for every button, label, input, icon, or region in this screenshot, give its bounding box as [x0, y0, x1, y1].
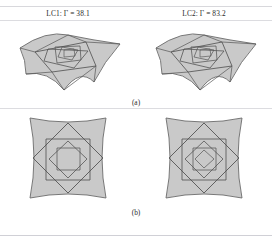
panel-b-row	[0, 109, 272, 207]
hypar-plan-lc1	[18, 110, 118, 206]
plan-surface-lc2	[166, 118, 242, 198]
hypar-perspective-lc1	[8, 22, 128, 96]
hypar-surface-lc2	[156, 34, 256, 90]
hypar-plan-lc2	[154, 110, 254, 206]
panel-a-caption: (a)	[0, 97, 272, 108]
load-case-label-row: LC1: Γ = 38.1 LC2: Γ = 83.2	[0, 7, 272, 20]
panel-a-cell-lc2	[136, 21, 272, 97]
plan-surface-lc1	[30, 118, 106, 198]
bottom-spacer	[0, 218, 272, 235]
panel-b-cell-lc1	[0, 109, 136, 207]
figure-container: LC1: Γ = 38.1 LC2: Γ = 83.2	[0, 0, 272, 239]
panel-b-caption: (b)	[0, 207, 272, 218]
load-case-label-lc2: LC2: Γ = 83.2	[136, 9, 272, 18]
load-case-label-lc1: LC1: Γ = 38.1	[0, 9, 136, 18]
hypar-surface-lc1	[20, 34, 120, 90]
bottom-margin	[0, 236, 272, 239]
panel-a-row	[0, 21, 272, 97]
hypar-perspective-lc2	[144, 22, 264, 96]
panel-b-cell-lc2	[136, 109, 272, 207]
panel-a-cell-lc1	[0, 21, 136, 97]
